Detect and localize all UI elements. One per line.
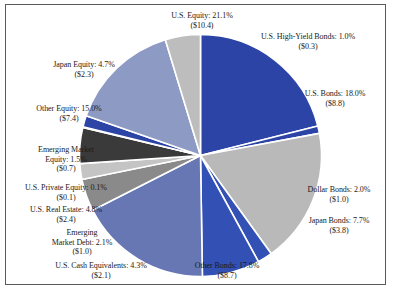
pie-chart-figure: U.S. Equity: 21.1% ($10.4) U.S. High-Yie… <box>0 0 393 303</box>
label-other-equity: Other Equity: 15.0% ($7.4) <box>14 104 124 123</box>
label-dollar-bonds: Dollar Bonds: 2.0% ($1.0) <box>290 185 388 204</box>
label-us-equity-line2: ($10.4) <box>146 21 258 31</box>
label-other-equity-line1: Other Equity: 15.0% <box>36 104 101 113</box>
label-us-high-yield-bonds-line1: U.S. High-Yield Bonds: 1.0% <box>261 32 355 41</box>
label-emerging-market-equity-line1: Emerging Market <box>38 145 94 154</box>
label-emerging-market-equity-line2: Equity: 1.5% <box>12 155 120 165</box>
label-us-private-equity: U.S. Private Equity: 0.1% ($0.1) <box>4 183 128 202</box>
label-us-cash-equivalents-line2: ($2.1) <box>33 271 169 281</box>
label-us-bonds-line1: U.S. Bonds: 18.0% <box>305 89 366 98</box>
label-dollar-bonds-line2: ($1.0) <box>290 195 388 205</box>
label-emerging-market-debt-line3: ($1.0) <box>24 247 140 257</box>
label-us-private-equity-line1: U.S. Private Equity: 0.1% <box>25 183 107 192</box>
label-us-private-equity-line2: ($0.1) <box>4 193 128 203</box>
label-us-bonds: U.S. Bonds: 18.0% ($8.8) <box>284 89 386 108</box>
label-us-real-estate-line1: U.S. Real Estate: 4.8% <box>30 205 102 214</box>
label-us-bonds-line2: ($8.8) <box>284 99 386 109</box>
label-japan-bonds: Japan Bonds: 7.7% ($3.8) <box>290 216 388 235</box>
label-us-equity: U.S. Equity: 21.1% ($10.4) <box>146 11 258 30</box>
label-other-equity-line2: ($7.4) <box>14 114 124 124</box>
label-us-real-estate: U.S. Real Estate: 4.8% ($2.4) <box>8 205 124 224</box>
label-us-high-yield-bonds-line2: ($0.3) <box>232 42 384 52</box>
label-other-bonds: Other Bonds: 17.8% ($8.7) <box>173 261 281 280</box>
label-us-real-estate-line2: ($2.4) <box>8 215 124 225</box>
label-us-high-yield-bonds: U.S. High-Yield Bonds: 1.0% ($0.3) <box>232 32 384 51</box>
label-emerging-market-equity: Emerging Market Equity: 1.5% ($0.7) <box>12 145 120 174</box>
label-emerging-market-debt-line1: Emerging <box>66 228 97 237</box>
label-emerging-market-debt: Emerging Market Debt: 2.1% ($1.0) <box>24 228 140 257</box>
label-other-bonds-line2: ($8.7) <box>173 271 281 281</box>
label-emerging-market-debt-line2: Market Debt: 2.1% <box>24 238 140 248</box>
label-us-equity-line1: U.S. Equity: 21.1% <box>171 11 233 20</box>
label-other-bonds-line1: Other Bonds: 17.8% <box>195 261 260 270</box>
label-dollar-bonds-line1: Dollar Bonds: 2.0% <box>308 185 371 194</box>
label-us-cash-equivalents-line1: U.S. Cash Equivalents: 4.3% <box>55 261 147 270</box>
label-japan-bonds-line1: Japan Bonds: 7.7% <box>309 216 370 225</box>
label-us-cash-equivalents: U.S. Cash Equivalents: 4.3% ($2.1) <box>33 261 169 280</box>
label-japan-equity-line1: Japan Equity: 4.7% <box>53 60 115 69</box>
label-emerging-market-equity-line3: ($0.7) <box>12 164 120 174</box>
label-japan-equity-line2: ($2.3) <box>30 70 138 80</box>
label-japan-equity: Japan Equity: 4.7% ($2.3) <box>30 60 138 79</box>
label-japan-bonds-line2: ($3.8) <box>290 226 388 236</box>
